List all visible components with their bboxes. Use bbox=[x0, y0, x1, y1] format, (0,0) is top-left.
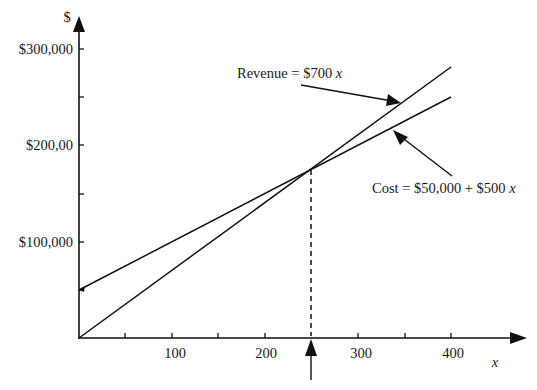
break-even-chart: $ $300,000 $200,00 $100,000 100 200 300 … bbox=[0, 0, 537, 390]
x-tick-300: 300 bbox=[350, 345, 372, 361]
x-tick-200: 200 bbox=[255, 345, 277, 361]
x-axis: 100 200 300 400 x bbox=[79, 332, 527, 370]
y-axis: $ $300,000 $200,00 $100,000 bbox=[19, 9, 85, 339]
break-even-arrow-icon bbox=[305, 339, 317, 356]
cost-pointer-arrow-icon bbox=[393, 130, 408, 145]
y-tick-200000: $200,00 bbox=[26, 137, 73, 153]
revenue-annotation: Revenue = $700 x bbox=[237, 65, 401, 106]
cost-equation-label: Cost = $50,000 + $500 x bbox=[372, 180, 516, 196]
y-tick-100000: $100,000 bbox=[19, 234, 73, 250]
revenue-line bbox=[79, 67, 451, 338]
x-tick-400: 400 bbox=[442, 345, 464, 361]
y-axis-arrow-icon bbox=[73, 16, 85, 32]
revenue-equation-label: Revenue = $700 x bbox=[237, 65, 343, 81]
y-tick-300000: $300,000 bbox=[19, 41, 73, 57]
cost-annotation: Cost = $50,000 + $500 x bbox=[372, 130, 516, 196]
x-tick-100: 100 bbox=[164, 345, 186, 361]
y-axis-label: $ bbox=[63, 9, 70, 25]
x-axis-label: x bbox=[491, 354, 499, 370]
x-axis-arrow-icon bbox=[510, 332, 527, 344]
